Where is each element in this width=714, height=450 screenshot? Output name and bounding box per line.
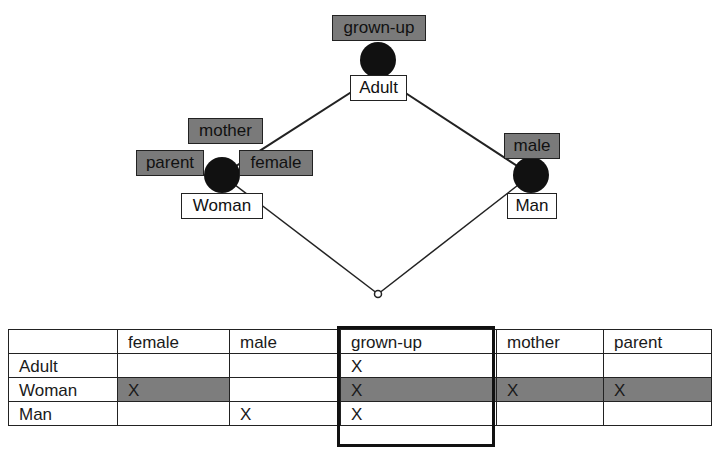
formal-context-table: female male grown-up mother parent Adult…: [8, 329, 712, 426]
node-bottom: [375, 291, 382, 298]
cell: [604, 402, 712, 426]
table-row-man: Man X X: [9, 402, 712, 426]
cell: [497, 354, 604, 378]
row-label: Man: [9, 402, 118, 426]
obj-label-man: Man: [507, 193, 557, 219]
node-woman: [204, 157, 240, 193]
col-header-grown-up: grown-up: [341, 330, 497, 354]
col-header-female: female: [118, 330, 230, 354]
corner-cell: [9, 330, 118, 354]
row-label: Adult: [9, 354, 118, 378]
node-man: [513, 157, 549, 193]
cell: [118, 354, 230, 378]
cell: X: [341, 378, 497, 402]
table-row-woman: Woman X X X X: [9, 378, 712, 402]
cell: [230, 378, 341, 402]
cell: [497, 402, 604, 426]
cell: [604, 354, 712, 378]
node-top: [360, 42, 396, 78]
attr-label-grown-up: grown-up: [332, 15, 426, 41]
cell: [230, 354, 341, 378]
lattice-lines: [0, 0, 714, 310]
col-header-male: male: [230, 330, 341, 354]
obj-label-woman: Woman: [181, 193, 263, 219]
table-row-adult: Adult X: [9, 354, 712, 378]
cell: X: [497, 378, 604, 402]
header-row: female male grown-up mother parent: [9, 330, 712, 354]
col-header-parent: parent: [604, 330, 712, 354]
cell: X: [341, 402, 497, 426]
attr-label-mother: mother: [188, 118, 263, 144]
attr-label-female: female: [239, 150, 313, 176]
cell: X: [118, 378, 230, 402]
cell: [118, 402, 230, 426]
row-label: Woman: [9, 378, 118, 402]
attr-label-parent: parent: [136, 150, 204, 176]
cell: X: [604, 378, 712, 402]
col-header-mother: mother: [497, 330, 604, 354]
obj-label-adult: Adult: [350, 75, 407, 101]
cell: X: [230, 402, 341, 426]
attr-label-male: male: [504, 133, 560, 159]
cell: X: [341, 354, 497, 378]
